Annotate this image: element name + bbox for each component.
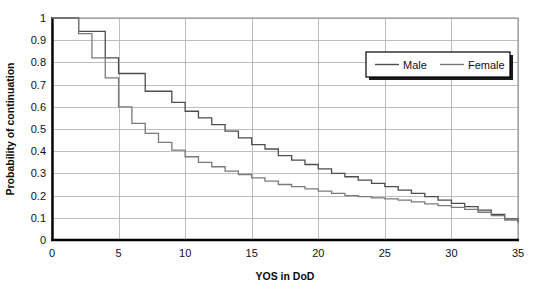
x-tick-label-4: 20: [312, 247, 324, 259]
y-tick-label-4: 0.4: [31, 145, 46, 157]
y-tick-label-5: 0.5: [31, 123, 46, 135]
y-tick-labels: 00.10.20.30.40.50.60.70.80.91: [31, 12, 46, 246]
y-tick-label-9: 0.9: [31, 34, 46, 46]
y-tick-label-1: 0.1: [31, 212, 46, 224]
x-tick-label-1: 5: [116, 247, 122, 259]
y-tick-label-10: 1: [40, 12, 46, 24]
x-tick-label-7: 35: [512, 247, 524, 259]
legend[interactable]: Male Female: [366, 52, 513, 80]
x-tick-labels: 05101520253035: [49, 247, 524, 259]
plot-area-background: [52, 18, 518, 240]
legend-label-female: Female: [468, 59, 505, 71]
y-tick-label-7: 0.7: [31, 79, 46, 91]
y-tick-label-0: 0: [40, 234, 46, 246]
x-tick-label-6: 30: [445, 247, 457, 259]
x-tick-label-5: 25: [379, 247, 391, 259]
x-axis-title: YOS in DoD: [256, 270, 315, 282]
legend-label-male: Male: [403, 59, 427, 71]
x-tick-label-2: 10: [179, 247, 191, 259]
chart-container: 00.10.20.30.40.50.60.70.80.91 0510152025…: [0, 0, 540, 295]
x-tick-label-3: 15: [246, 247, 258, 259]
continuation-probability-chart: 00.10.20.30.40.50.60.70.80.91 0510152025…: [0, 0, 540, 295]
y-tick-label-3: 0.3: [31, 167, 46, 179]
y-tick-label-6: 0.6: [31, 101, 46, 113]
y-axis-title: Probability of continuation: [4, 63, 16, 196]
y-tick-label-2: 0.2: [31, 190, 46, 202]
y-tick-label-8: 0.8: [31, 56, 46, 68]
x-tick-label-0: 0: [49, 247, 55, 259]
